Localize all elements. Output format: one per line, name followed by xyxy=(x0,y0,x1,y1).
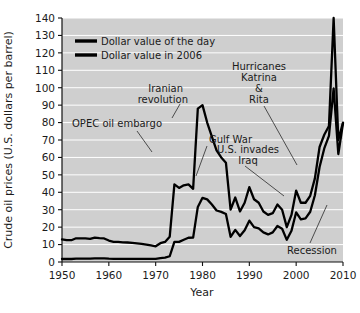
annotation-iraq-line1: U.S. invades xyxy=(217,144,279,155)
y-tick-label: 60 xyxy=(42,151,55,163)
x-tick-label: 2000 xyxy=(283,269,310,281)
y-tick-label: 140 xyxy=(35,12,55,24)
y-tick-label: 90 xyxy=(42,99,55,111)
legend-label-nominal: Dollar value of the day xyxy=(101,36,215,47)
x-tick-label: 1950 xyxy=(49,269,76,281)
y-tick-label: 120 xyxy=(35,47,55,59)
chart-svg: 0102030405060708090100110120130140 19501… xyxy=(0,0,360,313)
y-tick-label: 110 xyxy=(35,64,55,76)
y-tick-label: 50 xyxy=(42,169,55,181)
y-tick-label: 10 xyxy=(42,238,55,250)
x-tick-label: 1960 xyxy=(95,269,122,281)
annotation-opec: OPEC oil embargo xyxy=(72,118,162,129)
annotation-iranian-line2: revolution xyxy=(138,94,188,105)
annotation-recession: Recession xyxy=(287,245,337,256)
x-tick-label: 1970 xyxy=(142,269,169,281)
x-tick-label: 1990 xyxy=(236,269,263,281)
annotation-hurricanes-line4: Rita xyxy=(249,94,269,105)
y-tick-label: 0 xyxy=(48,256,55,268)
legend-label-adjusted: Dollar value in 2006 xyxy=(101,50,202,61)
y-tick-label: 100 xyxy=(35,82,55,94)
annotation-hurricanes-line2: Katrina xyxy=(241,72,277,83)
x-axis-title: Year xyxy=(189,286,214,299)
crude-oil-price-chart: 0102030405060708090100110120130140 19501… xyxy=(0,0,360,313)
annotation-iraq-line2: Iraq xyxy=(238,155,258,166)
annotation-hurricanes-line3: & xyxy=(255,83,263,94)
y-tick-label: 30 xyxy=(42,204,55,216)
x-tick-label: 2010 xyxy=(330,269,357,281)
y-tick-label: 130 xyxy=(35,29,55,41)
y-tick-label: 40 xyxy=(42,186,55,198)
y-tick-label: 80 xyxy=(42,116,55,128)
y-tick-label: 20 xyxy=(42,221,55,233)
annotation-hurricanes-line1: Hurricanes xyxy=(232,61,286,72)
x-tick-label: 1980 xyxy=(189,269,216,281)
y-tick-label: 70 xyxy=(42,134,55,146)
x-axis-tick-labels: 1950196019701980199020002010 xyxy=(49,269,357,281)
annotation-iranian-line1: Iranian xyxy=(148,83,183,94)
y-axis-tick-labels: 0102030405060708090100110120130140 xyxy=(35,12,55,268)
y-axis-title: Crude oil prices (U.S. dollars per barre… xyxy=(2,31,15,249)
